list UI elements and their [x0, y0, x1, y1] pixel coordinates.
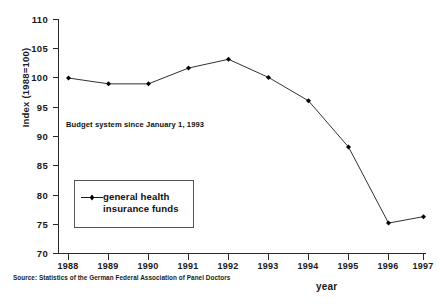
legend-item-label: general health insurance funds: [103, 191, 179, 215]
data-point-marker: [146, 81, 151, 86]
y-tick-label: 80: [18, 190, 48, 201]
chart-annotation-budget-system: Budget system since January 1, 1993: [66, 120, 204, 129]
x-tick-label: 1989: [88, 261, 128, 271]
legend-line-marker-icon: [81, 192, 103, 203]
data-point-marker: [386, 221, 391, 226]
x-tick-label: 1997: [403, 261, 438, 271]
x-tick-label: 1995: [328, 261, 368, 271]
data-point-marker: [66, 76, 71, 81]
x-tick-label: 1996: [368, 261, 408, 271]
legend-item: general health insurance funds: [81, 191, 179, 215]
y-tick-label: 70: [18, 248, 48, 259]
y-axis-ticks: [53, 20, 59, 254]
x-tick-label: 1990: [128, 261, 168, 271]
x-tick-label: 1994: [288, 261, 328, 271]
data-point-marker: [266, 75, 271, 80]
data-point-marker: [186, 66, 191, 71]
x-tick-label: 1993: [248, 261, 288, 271]
y-tick-label: 85: [18, 160, 48, 171]
chart-source-note: Source: Statistics of the German Federal…: [13, 274, 230, 281]
x-tick-label: 1988: [48, 261, 88, 271]
x-axis-label: year: [316, 281, 337, 292]
x-tick-label: 1991: [168, 261, 208, 271]
x-tick-label: 1992: [208, 261, 248, 271]
chart-legend: general health insurance funds: [74, 180, 194, 228]
data-point-marker: [421, 214, 426, 219]
y-tick-label: 75: [18, 219, 48, 230]
data-point-marker: [226, 57, 231, 62]
data-point-marker: [106, 81, 111, 86]
x-axis-ticks: [69, 254, 424, 260]
y-axis-label: Index (1988=100): [20, 23, 31, 153]
